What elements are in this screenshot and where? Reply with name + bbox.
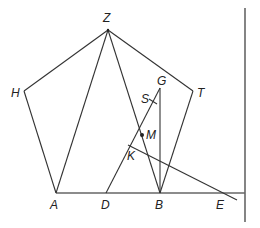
side-HA	[24, 91, 56, 193]
segment-KE	[128, 145, 237, 200]
point-M-dot	[140, 133, 144, 137]
side-TB	[160, 91, 193, 193]
side-ZT	[108, 30, 193, 91]
segment-ZA	[56, 30, 108, 193]
label-S: S	[141, 92, 149, 106]
label-H: H	[11, 86, 20, 100]
geometry-diagram: Z H T A B G S M K D E	[0, 0, 260, 228]
side-ZH	[24, 30, 108, 91]
label-A: A	[49, 198, 58, 212]
point-Z-dot	[107, 29, 109, 31]
label-E: E	[216, 198, 225, 212]
label-D: D	[101, 198, 110, 212]
label-G: G	[157, 74, 166, 88]
label-T: T	[197, 86, 206, 100]
diagram-canvas: Z H T A B G S M K D E	[0, 0, 260, 228]
label-K: K	[127, 149, 136, 163]
label-Z: Z	[102, 11, 111, 25]
label-B: B	[155, 198, 163, 212]
label-M: M	[146, 128, 156, 142]
segment-ZB	[108, 30, 160, 193]
tick-S	[149, 99, 157, 104]
